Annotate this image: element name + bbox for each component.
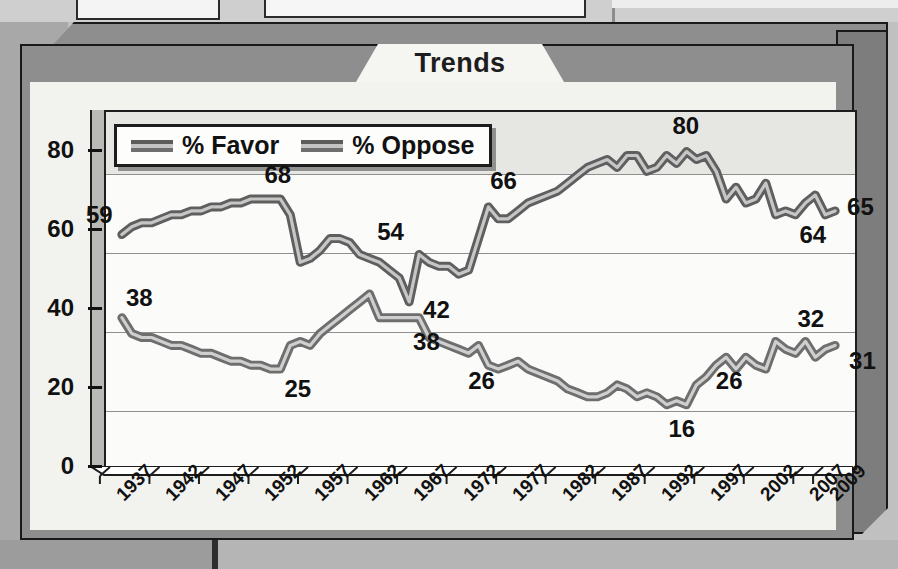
data-label-oppose-1937: 38 <box>126 286 153 310</box>
legend-label-favor: % Favor <box>182 133 279 158</box>
y-axis-label-20: 20 <box>28 373 74 401</box>
legend-item-oppose[interactable]: % Oppose <box>301 133 474 158</box>
data-label-oppose-2006: 32 <box>797 307 824 331</box>
data-label-favor-2009: 65 <box>847 195 874 219</box>
line-swatch-favor <box>131 140 173 152</box>
data-label-favor-2005: 64 <box>799 223 826 247</box>
data-label-favor-1937: 59 <box>86 203 113 227</box>
legend-item-favor[interactable]: % Favor <box>131 133 279 158</box>
data-label-oppose-2001: 26 <box>716 369 743 393</box>
chart-area: 020406080 193719421947195219571962196719… <box>90 110 855 480</box>
y-tick-0 <box>88 465 102 468</box>
y-axis-label-40: 40 <box>28 294 74 322</box>
series-favor-base <box>122 152 835 302</box>
data-label-favor-1967: 42 <box>423 298 450 322</box>
data-label-oppose-1953: 25 <box>284 377 311 401</box>
page-panel-a <box>76 0 220 20</box>
data-label-favor-1966: 54 <box>377 220 404 244</box>
legend-label-oppose: % Oppose <box>352 133 474 158</box>
y-axis-label-60: 60 <box>28 215 74 243</box>
page-title: Trends <box>415 50 506 77</box>
y-tick-60 <box>88 228 102 231</box>
data-label-oppose-1994: 16 <box>669 417 696 441</box>
chart-legend: % Favor % Oppose <box>114 124 492 167</box>
figure-box: Trends 020406080 19371942194719521957196… <box>14 22 884 542</box>
data-label-oppose-1967: 38 <box>413 330 440 354</box>
page-footer-left <box>0 540 212 569</box>
y-tick-80 <box>88 149 102 152</box>
data-label-favor-1953: 68 <box>264 163 291 187</box>
line-swatch-oppose <box>301 140 343 152</box>
page-panel-c <box>612 0 898 8</box>
data-label-oppose-1976: 26 <box>468 369 495 393</box>
y-axis-label-80: 80 <box>28 136 74 164</box>
title-banner: Trends <box>356 44 564 82</box>
y-tick-40 <box>88 307 102 310</box>
page-footer-right <box>218 540 898 569</box>
page-panel-b <box>264 0 586 18</box>
y-tick-20 <box>88 386 102 389</box>
data-label-oppose-2009: 31 <box>849 349 876 373</box>
y-axis-label-0: 0 <box>28 452 74 480</box>
data-label-favor-1976: 66 <box>490 169 517 193</box>
data-label-favor-1994: 80 <box>673 114 700 138</box>
